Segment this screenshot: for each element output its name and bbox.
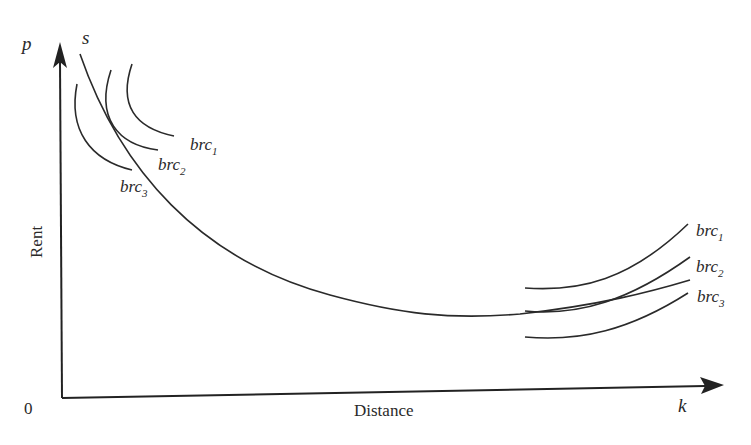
left-brc-3-curve [75,84,132,170]
x-axis [62,386,705,398]
right-brc-3-curve [525,293,688,338]
left-brc-1-curve [127,64,174,136]
supply-curve-label: s [82,27,89,48]
supply-curve-s [80,54,690,316]
right-brc-2-curve [525,257,690,312]
right-brc-1-label: brc1 [696,221,724,243]
bid-rent-diagram: p s Rent 0 Distance k brc1 brc2 brc3 brc… [0,0,751,445]
origin-label: 0 [24,399,33,418]
right-brc-3-label: brc3 [697,287,725,309]
left-brc-3-label: brc3 [120,177,148,199]
x-axis-label: Distance [354,401,413,420]
right-brc-1-curve [525,224,688,289]
diagram-canvas: p s Rent 0 Distance k brc1 brc2 brc3 brc… [0,0,751,445]
right-brc-2-label: brc2 [696,257,724,279]
y-axis-symbol: p [20,33,32,54]
left-brc-1-label: brc1 [190,135,218,157]
y-axis-label: Rent [27,226,46,258]
y-axis [60,62,62,398]
x-axis-symbol: k [678,395,687,416]
left-brc-2-label: brc2 [158,155,186,177]
